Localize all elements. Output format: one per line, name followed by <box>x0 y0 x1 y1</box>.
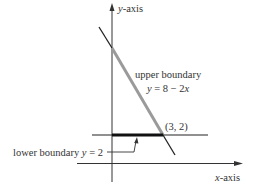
y-axis <box>110 3 115 182</box>
upper-boundary-equation: y = 8 − 2x <box>146 83 190 94</box>
y-axis-label: y-axis <box>117 3 143 14</box>
diagram-canvas: y-axis x-axis (3, 2) upper boundary y = … <box>0 0 257 195</box>
y-axis-arrow-icon <box>110 3 115 11</box>
upper-boundary-label: upper boundary <box>135 69 202 80</box>
leader-arrow-icon <box>134 137 138 144</box>
intersection-label: (3, 2) <box>165 121 188 133</box>
x-axis-label: x-axis <box>214 172 240 183</box>
lower-boundary-label: lower boundary y = 2 <box>13 147 103 158</box>
x-axis-arrow-icon <box>234 161 243 166</box>
x-axis <box>77 161 243 166</box>
